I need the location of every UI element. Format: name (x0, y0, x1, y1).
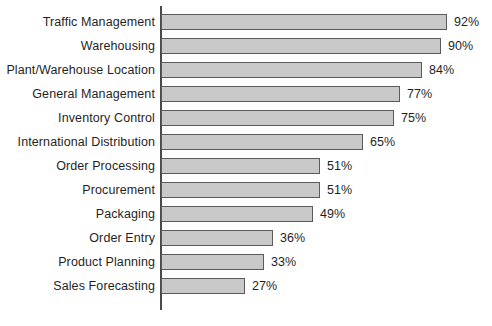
bar-row: Product Planning33% (0, 254, 492, 270)
bar-row: Warehousing90% (0, 38, 492, 54)
category-label: Plant/Warehouse Location (6, 63, 155, 77)
bar-track: 51% (161, 182, 492, 198)
bar-value-label: 51% (327, 159, 352, 173)
bar-value-label: 49% (320, 207, 345, 221)
bar-value-label: 92% (454, 15, 479, 29)
bar (161, 38, 441, 54)
bar-track: 84% (161, 62, 492, 78)
bar-value-label: 27% (252, 279, 277, 293)
category-label: General Management (32, 87, 155, 101)
category-label: International Distribution (18, 135, 155, 149)
bar-track: 92% (161, 14, 492, 30)
category-label: Procurement (82, 183, 155, 197)
category-label: Order Entry (89, 231, 155, 245)
bar-row: Order Entry36% (0, 230, 492, 246)
bar (161, 182, 320, 198)
bar-track: 77% (161, 86, 492, 102)
category-label: Packaging (96, 207, 155, 221)
bar-rows-container: Traffic Management92%Warehousing90%Plant… (0, 14, 492, 302)
bar-track: 90% (161, 38, 492, 54)
category-label: Order Processing (56, 159, 155, 173)
bar-value-label: 33% (271, 255, 296, 269)
bar-row: International Distribution65% (0, 134, 492, 150)
category-label: Product Planning (58, 255, 155, 269)
bar-value-label: 84% (429, 63, 454, 77)
bar-track: 65% (161, 134, 492, 150)
bar-track: 27% (161, 278, 492, 294)
bar-track: 36% (161, 230, 492, 246)
bar (161, 158, 320, 174)
bar (161, 110, 394, 126)
bar (161, 278, 245, 294)
bar (161, 86, 400, 102)
bar-chart: Traffic Management92%Warehousing90%Plant… (0, 0, 492, 326)
bar-value-label: 36% (280, 231, 305, 245)
bar-track: 51% (161, 158, 492, 174)
category-label: Sales Forecasting (53, 279, 155, 293)
bar-value-label: 65% (370, 135, 395, 149)
bar-row: General Management77% (0, 86, 492, 102)
bar (161, 62, 422, 78)
bar (161, 254, 264, 270)
bar-value-label: 75% (401, 111, 426, 125)
bar-value-label: 77% (407, 87, 432, 101)
bar-row: Order Processing51% (0, 158, 492, 174)
category-label: Traffic Management (43, 15, 155, 29)
bar-track: 75% (161, 110, 492, 126)
bar-row: Plant/Warehouse Location84% (0, 62, 492, 78)
bar-row: Packaging49% (0, 206, 492, 222)
bar-value-label: 90% (448, 39, 473, 53)
bar-row: Traffic Management92% (0, 14, 492, 30)
bar (161, 14, 447, 30)
bar-track: 33% (161, 254, 492, 270)
bar-track: 49% (161, 206, 492, 222)
bar-row: Inventory Control75% (0, 110, 492, 126)
bar (161, 230, 273, 246)
bar (161, 206, 313, 222)
category-label: Warehousing (81, 39, 155, 53)
category-label: Inventory Control (58, 111, 155, 125)
bar-row: Procurement51% (0, 182, 492, 198)
bar-value-label: 51% (327, 183, 352, 197)
bar (161, 134, 363, 150)
bar-row: Sales Forecasting27% (0, 278, 492, 294)
